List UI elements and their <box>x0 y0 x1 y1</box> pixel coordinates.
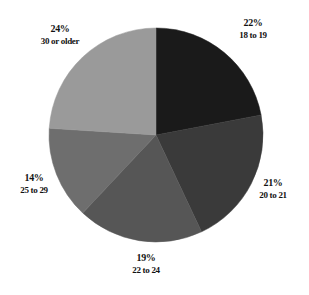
pie-label-20-to-21: 21% 20 to 21 <box>240 177 306 200</box>
pie-label-22-to-24: 19% 22 to 24 <box>106 252 186 275</box>
pie-label-percent: 24% <box>18 23 102 35</box>
pie-label-percent: 22% <box>211 17 295 29</box>
pie-label-percent: 19% <box>106 252 186 264</box>
pie-label-30-or-older: 24% 30 or older <box>18 23 102 46</box>
pie-chart-figure: 22% 18 to 19 21% 20 to 21 19% 22 to 24 1… <box>0 0 309 295</box>
pie-label-category: 20 to 21 <box>240 190 306 201</box>
pie-label-25-to-29: 14% 25 to 29 <box>2 172 66 195</box>
pie-label-category: 18 to 19 <box>211 30 295 41</box>
pie-slice-group <box>49 28 263 242</box>
pie-label-category: 22 to 24 <box>106 265 186 276</box>
pie-label-category: 25 to 29 <box>2 185 66 196</box>
pie-label-percent: 14% <box>2 172 66 184</box>
pie-label-percent: 21% <box>240 177 306 189</box>
pie-label-category: 30 or older <box>18 36 102 47</box>
pie-label-18-to-19: 22% 18 to 19 <box>211 17 295 40</box>
